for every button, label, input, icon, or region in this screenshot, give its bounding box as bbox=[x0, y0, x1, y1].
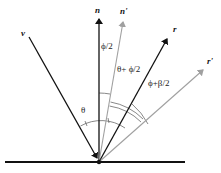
vector-v bbox=[29, 37, 97, 158]
phi-half-arc bbox=[99, 93, 110, 94]
label-theta: θ bbox=[81, 105, 85, 115]
reflection-diagram: v n n' r r' ϕ/2 θ+ ϕ/2 ϕ+β/2 θ bbox=[0, 0, 221, 173]
label-theta-plus-phi-half: θ+ ϕ/2 bbox=[117, 64, 140, 74]
theta-tick-2 bbox=[108, 118, 109, 123]
label-phi-half: ϕ/2 bbox=[101, 41, 113, 51]
label-n-prime: n' bbox=[120, 6, 128, 16]
label-phi-plus-beta-half: ϕ+β/2 bbox=[148, 78, 169, 88]
origin-point bbox=[97, 160, 101, 164]
label-v: v bbox=[21, 28, 26, 38]
label-n: n bbox=[95, 5, 100, 15]
label-r-prime: r' bbox=[207, 56, 214, 66]
label-r: r bbox=[173, 24, 177, 34]
